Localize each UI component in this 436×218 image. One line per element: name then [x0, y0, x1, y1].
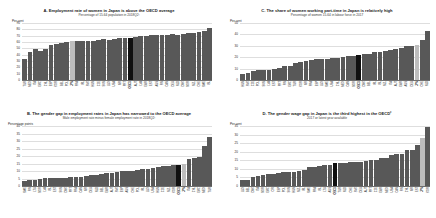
x-tick-label: ESP — [276, 187, 281, 213]
figure-sheet: A. Employment rate of women in Japan is … — [0, 0, 436, 218]
x-tick-label: POL — [256, 81, 261, 107]
x-tick-label: OECD — [356, 81, 361, 107]
x-tick-label: DEU — [89, 187, 94, 213]
bar-isl — [378, 52, 383, 81]
bar-deu — [170, 34, 175, 80]
x-tick-label: USA — [151, 187, 156, 213]
bar-fin — [160, 35, 165, 80]
bar-deu — [89, 175, 94, 186]
bar-che — [420, 40, 425, 80]
bar-chl — [405, 150, 410, 186]
panel-a-plot: 0102030405060708090 — [22, 23, 212, 80]
panel-c-y-axis: 01020304050 — [219, 23, 238, 80]
bar-aus — [404, 46, 409, 80]
panel-b-plot: 0510152025303540 — [22, 126, 212, 186]
bar-prt — [369, 160, 374, 186]
x-tick-label: ITA — [256, 187, 261, 213]
panel-c-title: C. The share of women working part-time … — [218, 8, 436, 13]
x-tick-label: CHE — [130, 187, 135, 213]
x-tick-label: FRA — [75, 81, 80, 107]
bar-grc — [197, 157, 202, 186]
y-tick-label: 10 — [17, 72, 20, 76]
x-tick-label: GBR — [144, 81, 149, 107]
bar-aus — [328, 165, 333, 186]
x-tick-label: EST — [272, 81, 277, 107]
y-tick-label: 10 — [235, 167, 238, 171]
x-tick-label: MEX — [202, 187, 207, 213]
x-tick-label: GRC — [288, 81, 293, 107]
bar-pol — [64, 42, 69, 80]
bar-oecd — [356, 55, 361, 80]
bar-chl — [43, 49, 48, 80]
bar-nzl — [166, 166, 171, 186]
panel-d-x-axis: LUXBELDNKITANORGRCCRIESPPOLSVNHUNNZLIRLS… — [240, 187, 430, 213]
x-tick-label: SVN — [58, 187, 63, 213]
panel-a-y-axis: 0102030405060708090 — [1, 23, 20, 80]
x-tick-label: DEU — [358, 187, 363, 213]
panel-a-x-axis: TURMEXITAGRCCHLESPKORBELPOLJPNFRAIRLSVKH… — [22, 81, 212, 107]
bar-bel — [59, 43, 64, 80]
x-tick-label: TUR — [22, 81, 27, 107]
x-tick-label: DEU — [170, 81, 175, 107]
bar-fra — [75, 41, 80, 80]
bar-fra — [312, 167, 317, 186]
x-tick-label: LTU — [33, 187, 38, 213]
x-tick-label: LUX — [107, 81, 112, 107]
bar-che — [348, 162, 353, 186]
bar-jpn — [420, 138, 425, 186]
y-tick-label: 20 — [235, 55, 238, 59]
x-tick-label: HUN — [292, 187, 297, 213]
x-tick-label: CHL — [405, 187, 410, 213]
bar-che — [130, 171, 135, 186]
bar-jpn — [70, 41, 75, 80]
x-tick-label: NOR — [261, 187, 266, 213]
x-tick-label: DNK — [251, 187, 256, 213]
bar-nzl — [383, 51, 388, 80]
x-tick-label: LVA — [267, 81, 272, 107]
bar-lux — [240, 180, 245, 186]
y-tick-label: 5 — [236, 175, 238, 179]
x-tick-label: AUS — [404, 81, 409, 107]
x-tick-label: GBR — [379, 187, 384, 213]
y-tick-label: 20 — [17, 65, 20, 69]
bar-svn — [261, 70, 266, 80]
x-tick-label: CHE — [197, 81, 202, 107]
bar-grc — [288, 66, 293, 80]
x-tick-label: AUT — [110, 187, 115, 213]
bar-nld — [343, 163, 348, 186]
bar-nor — [186, 33, 191, 80]
bar-cze — [96, 40, 101, 80]
x-tick-label: SVN — [261, 81, 266, 107]
bar-ita — [256, 176, 261, 186]
bar-aus — [154, 35, 159, 80]
bar-oecd — [333, 163, 338, 186]
bar-mex — [28, 52, 33, 81]
bar-isl — [48, 178, 53, 186]
bar-swe — [22, 181, 27, 186]
x-tick-label: JPN — [415, 81, 420, 107]
y-tick-label: 80 — [17, 27, 20, 31]
bar-aus — [125, 171, 130, 186]
bar-svk — [115, 172, 120, 186]
x-tick-label: ISL — [48, 187, 53, 213]
panel-c-subtitle: Percentage of women 15-64 in labour forc… — [218, 13, 436, 17]
panel-grid: A. Employment rate of women in Japan is … — [0, 6, 436, 218]
bar-cze — [251, 71, 256, 80]
y-tick-label: 25 — [17, 147, 20, 151]
bar-fin — [400, 154, 405, 186]
bar-mex — [202, 146, 207, 186]
panel-a-bars — [22, 23, 212, 80]
panel-b-y-unit: Percentage points — [8, 122, 33, 126]
x-tick-label: ISR — [304, 81, 309, 107]
bar-irl — [372, 52, 377, 80]
x-tick-label: OECD — [128, 81, 133, 107]
bar-ltu — [33, 180, 38, 186]
panel-c-x-axis: HUNSVKCZEPOLSVNLVAESTPRTFINGRCTURKORISRF… — [240, 81, 430, 107]
bar-tur — [207, 137, 212, 186]
x-tick-label: AUT — [364, 187, 369, 213]
y-tick-label: 10 — [17, 169, 20, 173]
panel-a: A. Employment rate of women in Japan is … — [0, 6, 218, 109]
bar-est — [272, 69, 277, 80]
bar-isr — [410, 150, 415, 186]
panel-d-bars — [240, 126, 430, 186]
